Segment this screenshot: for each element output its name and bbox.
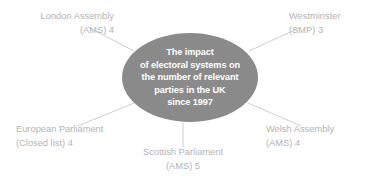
node-label-london-name: London Assembly [14, 10, 114, 24]
node-label-westminster-system: (SMP) 3 [289, 24, 359, 38]
node-label-london: London Assembly (AMS) 4 [14, 10, 114, 37]
node-label-welsh-system: (AMS) 4 [266, 137, 356, 151]
central-topic-line-4: parties in the UK [154, 84, 225, 96]
node-label-london-system: (AMS) 4 [14, 24, 114, 38]
node-label-european: European Parliament (Closed list) 4 [16, 123, 128, 150]
node-label-welsh-name: Welsh Assembly [266, 123, 356, 137]
node-label-european-system: (Closed list) 4 [16, 137, 128, 151]
node-label-scottish-system: (AMS) 5 [125, 160, 241, 174]
node-label-european-name: European Parliament [16, 123, 128, 137]
central-topic-line-2: of electoral systems on [140, 59, 240, 71]
node-label-scottish: Scottish Parliament (AMS) 5 [125, 146, 241, 173]
node-label-welsh: Welsh Assembly (AMS) 4 [266, 123, 356, 150]
node-label-westminster-name: Westminster [289, 10, 359, 24]
central-topic-line-3: the number of relevant [142, 71, 239, 83]
central-topic-ellipse: The impact of electoral systems on the n… [122, 33, 258, 122]
central-topic-line-5: since 1997 [167, 96, 213, 108]
diagram-canvas: The impact of electoral systems on the n… [0, 0, 367, 182]
node-label-scottish-name: Scottish Parliament [125, 146, 241, 160]
node-label-westminster: Westminster (SMP) 3 [289, 10, 359, 37]
central-topic-line-1: The impact [166, 46, 214, 58]
